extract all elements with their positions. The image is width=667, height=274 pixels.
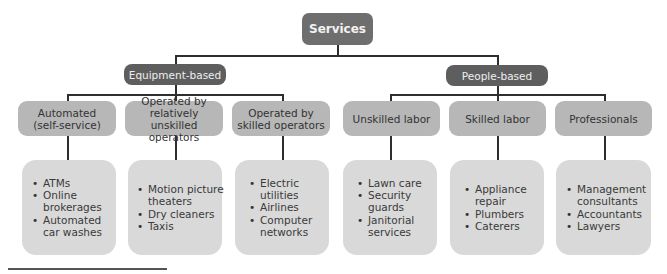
root-node-services: Services xyxy=(302,13,373,45)
example-item: Taxis xyxy=(137,220,230,232)
example-list: Electric utilities Airlines Computer net… xyxy=(249,177,320,238)
example-item: Dry cleaners xyxy=(137,208,230,220)
example-item: Computer networks xyxy=(249,214,320,239)
connector-root-down xyxy=(337,45,339,55)
subcategory-operated-unskilled: Operated by relatively unskilled operato… xyxy=(125,101,223,136)
connector-to-automated xyxy=(67,94,69,101)
example-item: Airlines xyxy=(249,201,320,213)
example-list: Motion picture theaters Dry cleaners Tax… xyxy=(137,183,230,232)
subcategory-label: Operated by skilled operators xyxy=(234,107,328,131)
connector-root-horizontal xyxy=(175,55,498,57)
example-item: Appliance repair xyxy=(464,183,537,208)
subcategory-label: Skilled labor xyxy=(465,113,530,125)
examples-operated-unskilled: Motion picture theaters Dry cleaners Tax… xyxy=(128,160,222,255)
category-label: People-based xyxy=(462,70,532,82)
example-list: Lawn care Security guards Janitorial ser… xyxy=(357,177,424,238)
connector-to-op-skilled xyxy=(282,94,284,101)
subcategory-operated-skilled: Operated by skilled operators xyxy=(232,101,330,136)
example-item: Plumbers xyxy=(464,208,537,220)
example-item: Management consultants xyxy=(566,183,655,208)
example-item: Automated car washes xyxy=(32,214,109,239)
example-item: Online brokerages xyxy=(32,189,109,214)
subcategory-professionals: Professionals xyxy=(555,101,652,136)
subcategory-label: Automated (self-service) xyxy=(32,107,102,131)
connector-sub-5 xyxy=(497,136,499,160)
example-item: Caterers xyxy=(464,220,537,232)
example-list: ATMs Online brokerages Automated car was… xyxy=(32,177,109,238)
example-list: Appliance repair Plumbers Caterers xyxy=(464,183,537,232)
subcategory-label: Professionals xyxy=(569,113,638,125)
root-label: Services xyxy=(309,22,366,36)
subcategory-skilled-labor: Skilled labor xyxy=(449,101,546,136)
connector-to-people xyxy=(497,55,499,65)
subcategory-unskilled-labor: Unskilled labor xyxy=(343,101,440,136)
subcategory-automated: Automated (self-service) xyxy=(18,101,116,136)
examples-professionals: Management consultants Accountants Lawye… xyxy=(556,160,651,255)
category-label: Equipment-based xyxy=(129,69,221,81)
examples-unskilled-labor: Lawn care Security guards Janitorial ser… xyxy=(343,160,437,255)
subcategory-label: Operated by relatively unskilled operato… xyxy=(127,95,221,143)
example-item: Janitorial services xyxy=(357,214,424,239)
example-item: Accountants xyxy=(566,208,655,220)
example-item: Lawyers xyxy=(566,220,655,232)
connector-sub-6 xyxy=(604,136,606,160)
subcategory-label: Unskilled labor xyxy=(353,113,431,125)
example-item: Security guards xyxy=(357,189,424,214)
category-equipment-based: Equipment-based xyxy=(124,64,226,85)
connector-sub-3 xyxy=(282,136,284,160)
example-item: Lawn care xyxy=(357,177,424,189)
example-item: ATMs xyxy=(32,177,109,189)
connector-sub-1 xyxy=(67,136,69,160)
example-item: Electric utilities xyxy=(249,177,310,202)
connector-to-equipment xyxy=(175,55,177,64)
connector-people-horizontal xyxy=(390,94,605,96)
example-item: Motion picture theaters xyxy=(137,183,230,208)
examples-automated: ATMs Online brokerages Automated car was… xyxy=(22,160,116,255)
example-list: Management consultants Accountants Lawye… xyxy=(566,183,655,232)
footnote-divider xyxy=(8,268,167,270)
connector-sub-4 xyxy=(390,136,392,160)
examples-skilled-labor: Appliance repair Plumbers Caterers xyxy=(450,160,544,255)
category-people-based: People-based xyxy=(446,65,548,86)
connector-to-unskilled xyxy=(390,94,392,101)
examples-operated-skilled: Electric utilities Airlines Computer net… xyxy=(235,160,329,255)
connector-to-professionals xyxy=(604,94,606,101)
